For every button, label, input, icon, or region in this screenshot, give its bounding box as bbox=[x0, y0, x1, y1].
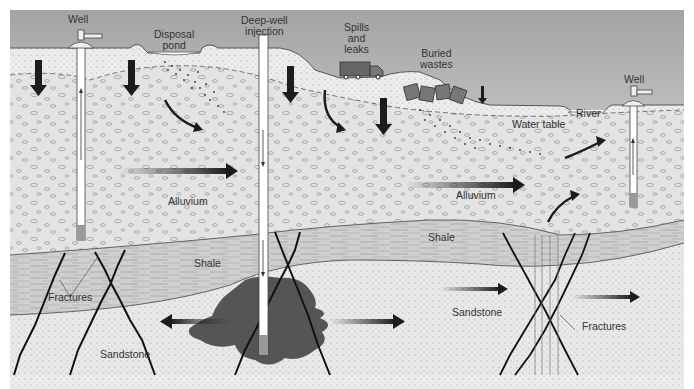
label-well-left: Well bbox=[68, 14, 88, 25]
label-sandstone-right: Sandstone bbox=[452, 307, 502, 318]
label-spills-3: leaks bbox=[344, 43, 369, 55]
label-buried-2: wastes bbox=[420, 58, 453, 70]
label-alluvium-right: Alluvium bbox=[456, 190, 496, 201]
groundwater-diagram: Well Disposalpond Deep-wellinjection Spi… bbox=[0, 0, 694, 389]
deep-well-injection-icon bbox=[259, 35, 268, 355]
label-deep-well: Deep-wellinjection bbox=[241, 15, 288, 37]
label-shale-left: Shale bbox=[194, 258, 221, 269]
label-pond: pond bbox=[162, 39, 185, 51]
label-shale-right: Shale bbox=[428, 232, 455, 243]
label-well-right: Well bbox=[624, 74, 644, 85]
label-water-table: Water table bbox=[512, 119, 565, 130]
label-alluvium-left: Alluvium bbox=[168, 196, 208, 207]
label-fractures-left: Fractures bbox=[48, 292, 92, 303]
label-spills: Spillsandleaks bbox=[344, 22, 369, 55]
label-sandstone-left: Sandstone bbox=[100, 349, 150, 360]
label-fractures-right: Fractures bbox=[582, 321, 626, 332]
label-buried-wastes: Buriedwastes bbox=[420, 48, 453, 70]
label-deep-well-2: injection bbox=[245, 25, 284, 37]
label-river: River bbox=[576, 108, 601, 119]
label-disposal-pond: Disposalpond bbox=[154, 29, 194, 51]
